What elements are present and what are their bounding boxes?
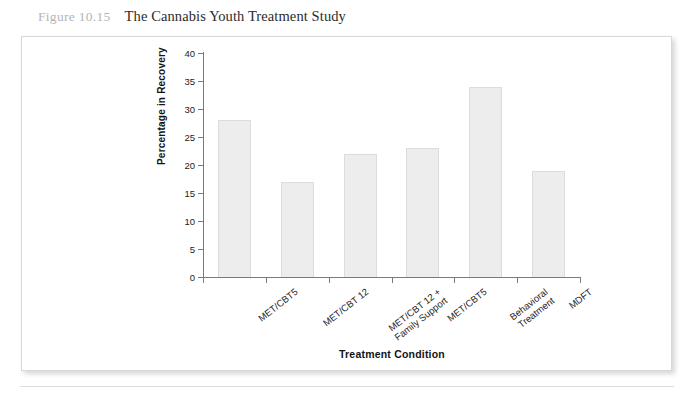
y-axis-tick bbox=[198, 81, 203, 82]
y-tick-group: 30 bbox=[203, 109, 204, 110]
figure-number: Figure 10.15 bbox=[38, 9, 111, 25]
bar bbox=[281, 182, 314, 277]
bar bbox=[469, 87, 502, 277]
bar bbox=[406, 148, 439, 277]
y-axis-tick-label: 10 bbox=[184, 216, 195, 227]
y-axis-title: Percentage in Recovery bbox=[156, 47, 167, 165]
y-axis-tick-label: 0 bbox=[190, 272, 195, 283]
plot-area: 0510152025303540 bbox=[203, 53, 580, 277]
x-axis-tick bbox=[266, 277, 267, 283]
figure-title: The Cannabis Youth Treatment Study bbox=[125, 8, 346, 25]
bar bbox=[532, 171, 565, 277]
y-axis-tick bbox=[198, 109, 203, 110]
y-axis-tick bbox=[198, 193, 203, 194]
y-axis-tick bbox=[198, 249, 203, 250]
y-tick-group: 35 bbox=[203, 81, 204, 82]
x-axis-tick bbox=[329, 277, 330, 283]
y-axis-tick-label: 30 bbox=[184, 104, 195, 115]
x-axis-title: Treatment Condition bbox=[203, 348, 581, 360]
y-tick-group: 20 bbox=[203, 165, 204, 166]
y-tick-group: 15 bbox=[203, 193, 204, 194]
y-tick-group: 25 bbox=[203, 137, 204, 138]
y-axis-tick bbox=[198, 53, 203, 54]
x-axis-tick bbox=[203, 277, 204, 283]
y-tick-group: 40 bbox=[203, 53, 204, 54]
bar bbox=[344, 154, 377, 277]
y-axis-tick-label: 5 bbox=[190, 244, 195, 255]
page-divider-rule bbox=[20, 386, 674, 387]
x-axis-tick bbox=[454, 277, 455, 283]
y-axis-tick-label: 25 bbox=[184, 132, 195, 143]
y-axis-tick bbox=[198, 137, 203, 138]
y-axis-tick-label: 20 bbox=[184, 160, 195, 171]
y-axis-tick bbox=[198, 221, 203, 222]
y-tick-group: 10 bbox=[203, 221, 204, 222]
x-axis-tick bbox=[580, 277, 581, 283]
y-axis-tick bbox=[198, 165, 203, 166]
y-axis-tick-label: 15 bbox=[184, 188, 195, 199]
y-axis-tick-label: 35 bbox=[184, 76, 195, 87]
x-axis-tick bbox=[517, 277, 518, 283]
y-tick-group: 5 bbox=[203, 249, 204, 250]
bar bbox=[218, 120, 251, 277]
figure-caption: Figure 10.15 The Cannabis Youth Treatmen… bbox=[38, 8, 346, 30]
y-axis-tick-label: 40 bbox=[184, 48, 195, 59]
x-axis-tick bbox=[392, 277, 393, 283]
